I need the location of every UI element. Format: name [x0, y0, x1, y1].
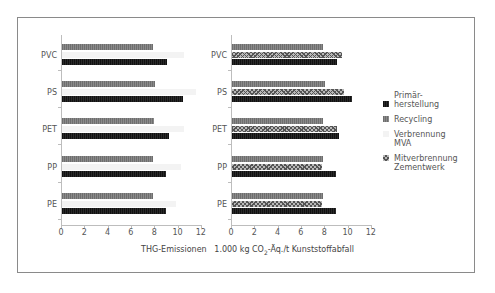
bar-pe-mva	[62, 201, 176, 207]
legend-swatch-mva	[383, 131, 389, 137]
y-tick	[228, 182, 231, 183]
y-tick	[228, 144, 231, 145]
x-tick-label: 4	[268, 228, 288, 237]
y-tick	[228, 70, 231, 71]
bar-ps-rec	[232, 81, 325, 87]
legend-swatch-mitverbrennung	[383, 155, 389, 161]
bar-pvc-mit	[232, 52, 342, 58]
bar-ps-rec	[62, 81, 155, 87]
x-tick-label: 2	[244, 228, 264, 237]
x-tick-label: 0	[51, 228, 71, 237]
category-label-pe: PE	[197, 200, 227, 209]
bar-pvc-pri	[62, 59, 167, 65]
bar-pvc-rec	[62, 44, 153, 50]
x-tick-label: 10	[168, 228, 188, 237]
x-tick-label: 8	[314, 228, 334, 237]
category-label-pvc: PVC	[27, 51, 57, 60]
bar-pvc-rec	[232, 44, 323, 50]
legend-item-primaerherstellung: Primär- herstellung	[382, 91, 472, 109]
legend-label: MVA	[394, 139, 472, 148]
x-tick-label: 6	[121, 228, 141, 237]
y-tick	[228, 219, 231, 220]
legend-swatch-recycling	[383, 116, 389, 122]
bar-pe-pri	[62, 208, 166, 214]
legend-item-mitverbrennung: Mitverbrennung Zementwerk	[382, 154, 472, 172]
x-axis-title: THG-Emissionen 1.000 kg CO2-Äq./t Kunsts…	[0, 245, 495, 256]
x-tick-label: 2	[74, 228, 94, 237]
legend-label: Mitverbrennung	[394, 154, 472, 163]
y-tick	[228, 107, 231, 108]
legend-item-recycling: Recycling	[382, 115, 472, 124]
category-label-pe: PE	[27, 200, 57, 209]
y-tick	[58, 219, 61, 220]
category-label-pet: PET	[197, 125, 227, 134]
bar-pe-rec	[232, 193, 323, 199]
bar-pet-rec	[62, 118, 154, 124]
x-tick-label: 10	[338, 228, 358, 237]
bar-ps-mit	[232, 89, 344, 95]
bar-pet-pri	[62, 133, 169, 139]
category-label-pet: PET	[27, 125, 57, 134]
category-label-pvc: PVC	[197, 51, 227, 60]
legend-item-verbrennung-mva: Verbrennung MVA	[382, 130, 472, 148]
category-label-pp: PP	[197, 163, 227, 172]
legend: Primär- herstellung Recycling Verbrennun…	[382, 91, 472, 178]
x-axis-title-suffix: -Äq./t Kunststoffabfall	[268, 245, 354, 254]
x-tick-label: 8	[144, 228, 164, 237]
legend-swatch-primary	[383, 101, 389, 107]
legend-label: Verbrennung	[394, 130, 472, 139]
x-tick-label: 12	[191, 228, 211, 237]
bar-pp-pri	[62, 171, 166, 177]
y-tick	[58, 144, 61, 145]
x-tick-label: 12	[361, 228, 381, 237]
bar-pvc-pri	[232, 59, 337, 65]
x-tick-label: 6	[291, 228, 311, 237]
y-tick	[58, 107, 61, 108]
bar-pp-mit	[232, 164, 322, 170]
legend-label: Primär-	[394, 91, 472, 100]
x-tick-label: 4	[98, 228, 118, 237]
legend-label: herstellung	[394, 100, 472, 109]
y-tick	[58, 182, 61, 183]
bar-ps-mva	[62, 89, 196, 95]
bar-pe-mit	[232, 201, 322, 207]
category-label-pp: PP	[27, 163, 57, 172]
bar-pet-pri	[232, 133, 339, 139]
bar-pp-rec	[62, 156, 153, 162]
bar-ps-pri	[62, 96, 183, 102]
bar-pet-mva	[62, 126, 184, 132]
bar-pp-mva	[62, 164, 181, 170]
x-axis-title-prefix: THG-Emissionen 1.000 kg CO	[141, 245, 264, 254]
bar-pe-rec	[62, 193, 153, 199]
bar-pe-pri	[232, 208, 336, 214]
legend-label: Zementwerk	[394, 163, 472, 172]
bar-pp-pri	[232, 171, 336, 177]
category-label-ps: PS	[27, 88, 57, 97]
bar-pvc-mva	[62, 52, 184, 58]
legend-label: Recycling	[394, 115, 472, 124]
x-tick-label: 0	[221, 228, 241, 237]
y-tick	[58, 70, 61, 71]
bar-ps-pri	[232, 96, 352, 102]
bar-pet-rec	[232, 118, 323, 124]
bar-pet-mit	[232, 126, 337, 132]
category-label-ps: PS	[197, 88, 227, 97]
bar-pp-rec	[232, 156, 323, 162]
